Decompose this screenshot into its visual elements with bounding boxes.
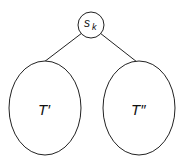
left-subtree-label: T′ xyxy=(38,101,51,118)
tree-diagram: sk T′ T″ xyxy=(0,0,183,163)
right-subtree-label: T″ xyxy=(131,101,146,118)
root-node xyxy=(78,12,104,38)
edge-right xyxy=(100,33,137,62)
edge-left xyxy=(44,33,82,62)
